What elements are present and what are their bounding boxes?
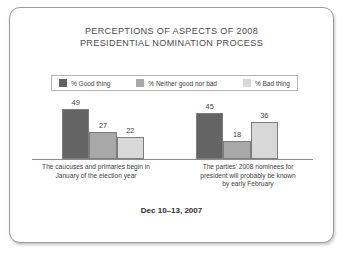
category-label-caucuses: The caucuses and primaries begin inJanua…	[28, 163, 164, 180]
legend-item-good-thing: % Good thing	[59, 79, 110, 87]
category-label-line: president will probably be known	[180, 172, 316, 181]
category-label-line: by early February	[180, 180, 316, 189]
bar-bad-thing	[117, 137, 144, 159]
legend-item-neither: % Neither good nor bad	[136, 79, 217, 87]
bar-good-thing	[62, 109, 89, 159]
bar-value: 36	[245, 111, 284, 120]
bar-slot: 22	[117, 98, 144, 159]
bar-slot: 36	[251, 98, 278, 159]
bar-neither	[223, 141, 250, 159]
category-label-line: The parties' 2008 nominees for	[180, 163, 316, 172]
legend-swatch-neither	[136, 79, 144, 87]
slide-frame: PERCEPTIONS OF ASPECTS OF 2008 PRESIDENT…	[9, 7, 334, 243]
category-label-line: January of the election year	[28, 172, 164, 181]
bar-group-caucuses: 49 27 22	[62, 98, 144, 159]
chart-legend: % Good thing % Neither good nor bad % Ba…	[51, 75, 298, 91]
bar-chart-plot: 49 27 22 45 18	[32, 98, 313, 160]
bar-slot: 45	[196, 98, 223, 159]
bar-value: 22	[111, 126, 150, 135]
title-line-1: PERCEPTIONS OF ASPECTS OF 2008	[10, 25, 333, 37]
legend-label-neither: % Neither good nor bad	[148, 80, 217, 87]
page-title: PERCEPTIONS OF ASPECTS OF 2008 PRESIDENT…	[10, 25, 333, 50]
legend-swatch-good-thing	[59, 79, 67, 87]
legend-label-bad-thing: % Bad thing	[255, 80, 290, 87]
legend-swatch-bad-thing	[243, 79, 251, 87]
legend-item-bad-thing: % Bad thing	[243, 79, 290, 87]
category-label-line: The caucuses and primaries begin in	[28, 163, 164, 172]
axis-baseline	[32, 159, 313, 160]
title-line-2: PRESIDENTIAL NOMINATION PROCESS	[10, 37, 333, 49]
survey-date-footer: Dec 10–13, 2007	[10, 206, 333, 215]
bar-group-nominees: 45 18 36	[196, 98, 278, 159]
legend-label-good-thing: % Good thing	[71, 80, 110, 87]
bar-bad-thing	[251, 122, 278, 159]
category-label-nominees: The parties' 2008 nominees forpresident …	[180, 163, 316, 189]
bar-neither	[89, 132, 116, 159]
bar-slot: 18	[223, 98, 250, 159]
